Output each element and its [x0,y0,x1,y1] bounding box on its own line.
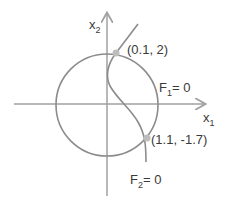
f1-label: F1= 0 [159,80,190,98]
diagram-canvas: x2 x1 (0.1, 2) (1.1, -1.7) F1= 0 F2= 0 [0,0,232,208]
x2-axis-label: x2 [89,17,101,35]
intersection-point-1 [113,50,120,57]
point-label-2: (1.1, -1.7) [151,132,207,147]
point-label-1: (0.1, 2) [127,42,168,57]
f2-label: F2= 0 [130,172,161,190]
intersection-point-2 [144,135,151,142]
x1-axis-label: x1 [203,110,215,128]
